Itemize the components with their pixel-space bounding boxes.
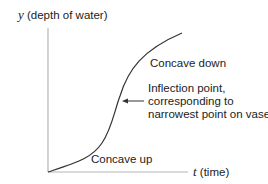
inflection-line-1: Inflection point, — [148, 82, 268, 95]
arrow-head-icon — [122, 99, 128, 104]
x-variable: t — [193, 164, 197, 179]
concave-up-label: Concave up — [91, 153, 152, 166]
y-description: (depth of water) — [27, 9, 108, 21]
x-description: (time) — [200, 166, 229, 178]
inflection-label: Inflection point, corresponding to narro… — [148, 82, 268, 121]
inflection-line-3: narrowest point on vase — [148, 108, 268, 121]
inflection-line-2: corresponding to — [148, 95, 268, 108]
concave-down-label: Concave down — [150, 57, 226, 70]
x-axis-label: t (time) — [193, 165, 229, 179]
diagram: y (depth of water) Concave down Inflecti… — [0, 0, 268, 184]
y-axis-label: y (depth of water) — [18, 8, 108, 22]
y-variable: y — [18, 7, 24, 22]
